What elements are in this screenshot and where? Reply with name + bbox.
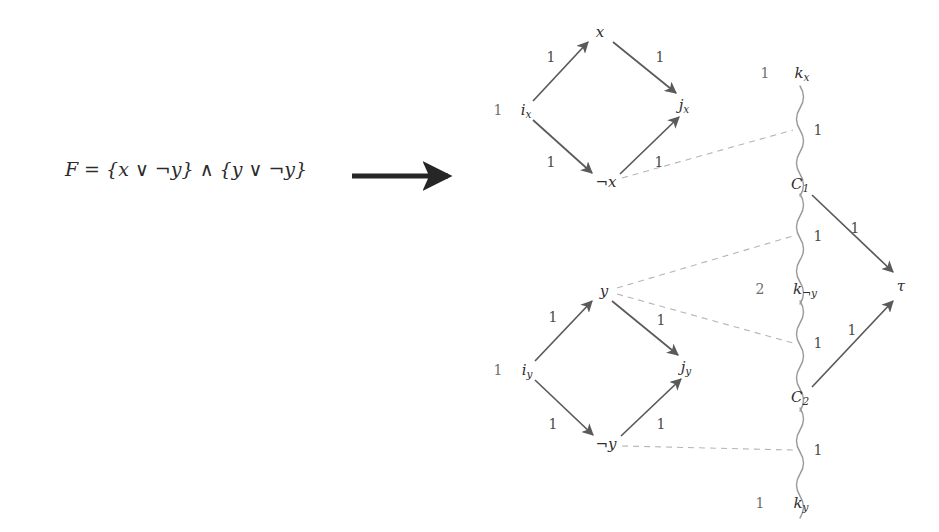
node-tau-label: τ [897, 277, 905, 295]
solid-edge-notx-jx [620, 117, 679, 174]
node-not-y-label: y [608, 435, 616, 453]
reduction-figure: F = {x ∨ ¬y} ∧ {y ∨ ¬y} [0, 0, 939, 532]
node-not-x: ¬x [595, 173, 616, 191]
supply-ky: 1 [756, 495, 765, 511]
supply-k-not-y: 2 [756, 281, 765, 297]
negation-symbol-x: ¬ [595, 173, 608, 191]
weight-y-jy: 1 [657, 312, 666, 328]
node-ix: ix [521, 101, 532, 120]
dashed-edge-notx-kxC1 [622, 130, 793, 178]
solid-edge-group [533, 42, 893, 436]
solid-edge-iy-noty [535, 380, 593, 435]
weight-iy-noty: 1 [549, 416, 558, 432]
node-C2-sub: 2 [802, 395, 809, 407]
weight-iy-y: 1 [549, 309, 558, 325]
solid-edge-x-jx [613, 42, 676, 93]
node-y: y [600, 282, 608, 300]
node-ky-label: k [793, 494, 802, 512]
wavy-edge-group [797, 86, 804, 518]
node-C2: C2 [791, 388, 809, 407]
node-y-label: y [600, 282, 608, 300]
node-k-not-y: k¬y [793, 280, 817, 299]
node-not-y: ¬y [595, 435, 616, 453]
weight-C2-tau: 1 [848, 322, 857, 338]
weight-notx-jx: 1 [655, 154, 664, 170]
node-ky-sub: y [803, 501, 809, 513]
dashed-edge-noty-C2ky [622, 446, 793, 450]
node-not-x-label: x [608, 173, 616, 191]
node-kx-sub: x [804, 71, 810, 83]
node-tau: τ [897, 277, 905, 295]
node-kx: kx [794, 64, 809, 83]
node-C2-label: C [791, 388, 802, 406]
weight-ix-x: 1 [547, 49, 556, 65]
node-x-label: x [596, 23, 604, 41]
node-jy: jy [681, 358, 692, 377]
weight-ix-notx: 1 [547, 154, 556, 170]
dashed-edge-y-knotyC2 [617, 294, 793, 343]
solid-edge-y-jy [612, 301, 678, 355]
node-x: x [596, 23, 604, 41]
weight-x-jx: 1 [656, 49, 665, 65]
weight-C1-tau: 1 [851, 220, 860, 236]
node-k-not-y-label: k [793, 280, 802, 298]
node-C1-sub: 1 [802, 182, 809, 194]
node-C1-label: C [791, 175, 802, 193]
node-kx-label: k [794, 64, 803, 82]
node-jy-sub: y [685, 365, 691, 377]
supply-ix: 1 [494, 102, 503, 118]
node-k-not-y-sub: ¬y [802, 287, 817, 299]
node-C1: C1 [791, 175, 809, 194]
weight-noty-jy: 1 [657, 416, 666, 432]
weight-C2-ky: 1 [814, 442, 823, 458]
supply-iy: 1 [494, 362, 503, 378]
weight-C1-knoty: 1 [814, 228, 823, 244]
solid-edge-C2-tau [812, 301, 893, 387]
weight-knoty-C2: 1 [814, 335, 823, 351]
negation-symbol-y: ¬ [595, 435, 608, 453]
solid-edge-ix-notx [533, 120, 592, 173]
node-iy: iy [522, 361, 533, 380]
weight-kx-C1: 1 [814, 122, 823, 138]
node-ky: ky [793, 494, 808, 513]
solid-edge-iy-y [535, 301, 592, 361]
supply-kx: 1 [761, 65, 770, 81]
node-jx-sub: x [683, 103, 689, 115]
solid-edge-noty-jy [621, 379, 681, 436]
node-iy-sub: y [526, 368, 532, 380]
node-ix-sub: x [525, 108, 531, 120]
dashed-edge-y-C1knoty [617, 236, 793, 288]
dashed-edge-group [617, 130, 793, 450]
node-jx: jx [679, 96, 690, 115]
solid-edge-ix-x [533, 42, 588, 101]
